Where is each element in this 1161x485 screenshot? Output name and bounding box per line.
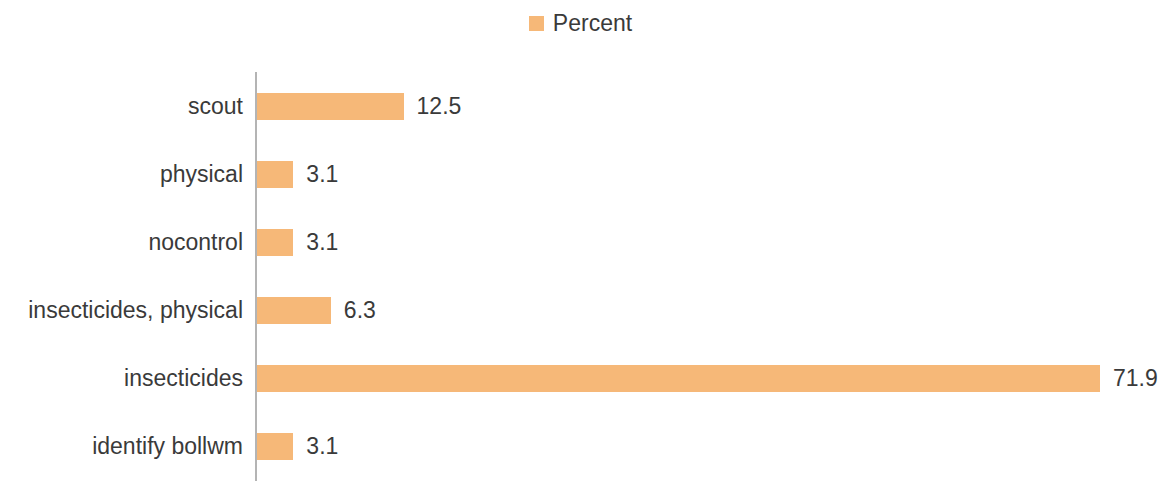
category-label: insecticides — [124, 344, 243, 412]
category-label: physical — [160, 140, 243, 208]
category-label: nocontrol — [148, 208, 243, 276]
category-label: scout — [188, 72, 243, 140]
bar-physical[interactable] — [257, 161, 293, 188]
bar-chart: Percent scout 12.5 physical 3.1 — [0, 0, 1161, 485]
bar-value-label: 12.5 — [417, 95, 462, 118]
bar-group: 6.3 — [257, 276, 376, 344]
bar-insecticides[interactable] — [257, 365, 1100, 392]
bar-value-label: 71.9 — [1113, 367, 1158, 390]
bar-row: identify bollwm 3.1 — [0, 412, 1161, 480]
bar-group: 3.1 — [257, 412, 338, 480]
bar-scout[interactable] — [257, 93, 404, 120]
bar-rows: scout 12.5 physical 3.1 nocontrol — [0, 72, 1161, 480]
bar-row: insecticides, physical 6.3 — [0, 276, 1161, 344]
bar-value-label: 6.3 — [344, 299, 376, 322]
bar-row: physical 3.1 — [0, 140, 1161, 208]
bar-group: 3.1 — [257, 208, 338, 276]
plot-area: scout 12.5 physical 3.1 nocontrol — [0, 0, 1161, 485]
bar-identify-bollwm[interactable] — [257, 433, 293, 460]
bar-value-label: 3.1 — [306, 435, 338, 458]
bar-row: nocontrol 3.1 — [0, 208, 1161, 276]
bar-row: scout 12.5 — [0, 72, 1161, 140]
bar-nocontrol[interactable] — [257, 229, 293, 256]
bar-row: insecticides 71.9 — [0, 344, 1161, 412]
category-label: insecticides, physical — [28, 276, 243, 344]
bar-group: 3.1 — [257, 140, 338, 208]
category-label: identify bollwm — [92, 412, 243, 480]
bar-insecticides-physical[interactable] — [257, 297, 331, 324]
bar-group: 12.5 — [257, 72, 461, 140]
bar-value-label: 3.1 — [306, 231, 338, 254]
bar-value-label: 3.1 — [306, 163, 338, 186]
bar-group: 71.9 — [257, 344, 1158, 412]
